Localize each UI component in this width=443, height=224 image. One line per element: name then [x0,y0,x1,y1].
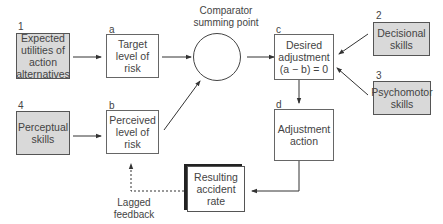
node-2-tag: 2 [376,10,382,21]
box-line: adjustment [278,51,329,63]
box-line: skills [377,39,425,51]
box-line: action [278,135,331,147]
box-line: risk [116,62,149,74]
box-line: Perceptual [18,121,68,133]
label-line: feedback [104,209,164,221]
box-line: Perceived [109,114,156,126]
box-line: Target [116,38,149,50]
node-4-tag: 4 [18,100,24,111]
label-line: summing point [186,17,266,29]
psychomotor-skills-box: Psychomotor skills [373,81,431,115]
box-line: accident [194,183,238,195]
box-line: risk [109,138,156,150]
decisional-skills-box: Decisional skills [373,22,430,56]
box-line: Decisional [377,27,425,39]
box-line: Expected [16,32,70,44]
box-line: alternatives [16,68,70,80]
comparator-summing-point [193,33,241,81]
box-line: rate [194,195,238,207]
box-line: Resulting [194,171,238,183]
box-line: Psychomotor [371,86,432,98]
expected-utilities-box: Expected utilities of action alternative… [16,33,70,79]
node-3-tag: 3 [376,70,382,81]
lagged-feedback-label: Lagged feedback [104,197,164,220]
box-line: skills [18,133,68,145]
perceptual-skills-box: Perceptual skills [16,111,70,155]
box-line: action [16,56,70,68]
box-line: Adjustment [278,123,331,135]
node-1-tag: 1 [18,21,24,32]
box-line: Desired [278,39,329,51]
perceived-level-of-risk-box: Perceived level of risk [106,110,159,154]
box-line: level of [116,50,149,62]
target-level-of-risk-box: Target level of risk [106,34,159,78]
label-line: Comparator [186,5,266,17]
resulting-accident-rate-box: Resulting accident rate [187,166,245,212]
desired-adjustment-box: Desired adjustment (a − b) = 0 [274,34,334,80]
box-line: level of [109,126,156,138]
box-line: utilities of [16,44,70,56]
label-line: Lagged [104,197,164,209]
box-line: (a − b) = 0 [278,63,329,75]
box-line: skills [371,98,432,110]
adjustment-action-box: Adjustment action [274,109,334,161]
comparator-label: Comparator summing point [186,5,266,28]
